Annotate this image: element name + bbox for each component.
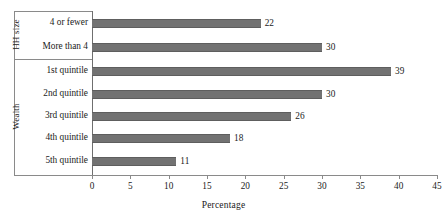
category-label-7: 5th quintile [18,155,88,166]
x-tick-10 [169,175,170,179]
bar-5 [92,112,291,121]
bar-7 [92,157,176,166]
bar-value-label-1: 22 [265,18,274,28]
category-label-text: 3rd quintile [18,110,88,121]
x-tick-0 [92,175,93,179]
bar-chart: HH size Wealth 4 or fewer22More than 430… [0,0,447,220]
category-label-text: More than 4 [18,41,88,52]
x-tick-label-0: 0 [80,181,104,192]
category-label-text: 2nd quintile [18,88,88,99]
x-tick-label-25: 25 [272,181,296,192]
bar-value-label-4: 30 [326,89,335,99]
category-label-1: 4 or fewer [18,17,88,28]
x-tick-35 [360,175,361,179]
category-label-text: 4th quintile [18,132,88,143]
category-label-text: 4 or fewer [18,17,88,28]
x-tick-label-5: 5 [118,181,142,192]
group-separator-line [14,59,93,60]
category-label-4: 2nd quintile [18,88,88,99]
x-tick-40 [399,175,400,179]
x-tick-label-10: 10 [157,181,181,192]
bar-4 [92,90,322,99]
x-tick-label-20: 20 [233,181,257,192]
x-tick-45 [437,175,438,179]
x-tick-label-35: 35 [348,181,372,192]
x-tick-30 [322,175,323,179]
x-axis-line [14,175,437,176]
x-tick-label-30: 30 [310,181,334,192]
category-label-3: 1st quintile [18,65,88,76]
x-tick-label-40: 40 [387,181,411,192]
category-label-text: 5th quintile [18,155,88,166]
category-label-6: 4th quintile [18,132,88,143]
bar-value-label-6: 18 [234,133,243,143]
x-tick-5 [130,175,131,179]
bar-value-label-2: 30 [326,42,335,52]
x-tick-15 [207,175,208,179]
bar-2 [92,43,322,52]
x-tick-25 [284,175,285,179]
x-axis-title: Percentage [0,200,447,210]
category-label-2: More than 4 [18,41,88,52]
x-tick-label-45: 45 [425,181,447,192]
bar-6 [92,134,230,143]
bar-value-label-7: 11 [180,156,189,166]
x-tick-label-15: 15 [195,181,219,192]
category-label-text: 1st quintile [18,65,88,76]
bar-1 [92,19,261,28]
bar-value-label-5: 26 [295,111,304,121]
bar-value-label-3: 39 [395,66,404,76]
category-block-top-border [14,11,93,12]
bar-3 [92,67,391,76]
x-tick-20 [245,175,246,179]
category-label-5: 3rd quintile [18,110,88,121]
